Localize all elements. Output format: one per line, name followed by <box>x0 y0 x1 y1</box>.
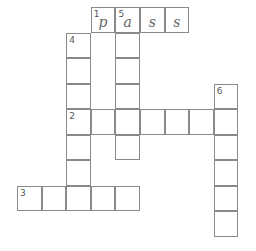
cell-letter: s <box>141 14 164 30</box>
crossword-cell[interactable] <box>115 135 140 161</box>
cell-letter: s <box>166 14 189 30</box>
clue-number: 2 <box>69 111 75 121</box>
crossword-cell[interactable]: s <box>140 7 165 33</box>
crossword-cell[interactable] <box>91 186 116 212</box>
crossword-cell[interactable]: s <box>165 7 190 33</box>
crossword-cell[interactable]: 6 <box>214 84 239 110</box>
crossword-cell[interactable] <box>42 186 67 212</box>
cell-letter: a <box>116 14 139 30</box>
crossword-cell[interactable] <box>214 211 239 237</box>
crossword-cell[interactable] <box>115 58 140 84</box>
crossword-cell[interactable] <box>214 109 239 135</box>
crossword-cell[interactable] <box>140 109 165 135</box>
crossword-cell[interactable] <box>214 160 239 186</box>
crossword-grid: 1p5ass4263 <box>17 7 256 247</box>
crossword-cell[interactable]: 1p <box>91 7 116 33</box>
crossword-cell[interactable]: 4 <box>66 33 91 59</box>
clue-number: 3 <box>20 188 26 198</box>
crossword-cell[interactable] <box>66 186 91 212</box>
crossword-cell[interactable]: 3 <box>17 186 42 212</box>
crossword-cell[interactable] <box>91 109 116 135</box>
crossword-cell[interactable] <box>214 135 239 161</box>
crossword-cell[interactable] <box>66 160 91 186</box>
crossword-cell[interactable] <box>115 84 140 110</box>
crossword-cell[interactable]: 5a <box>115 7 140 33</box>
crossword-cell[interactable] <box>115 33 140 59</box>
crossword-cell[interactable] <box>189 109 214 135</box>
crossword-cell[interactable] <box>214 186 239 212</box>
crossword-cell[interactable]: 2 <box>66 109 91 135</box>
crossword-cell[interactable] <box>66 135 91 161</box>
crossword-cell[interactable] <box>165 109 190 135</box>
cell-letter: p <box>92 14 115 30</box>
clue-number: 6 <box>217 86 223 96</box>
crossword-cell[interactable] <box>66 58 91 84</box>
crossword-cell[interactable] <box>115 186 140 212</box>
crossword-cell[interactable] <box>66 84 91 110</box>
crossword-cell[interactable] <box>115 109 140 135</box>
clue-number: 4 <box>69 35 75 45</box>
